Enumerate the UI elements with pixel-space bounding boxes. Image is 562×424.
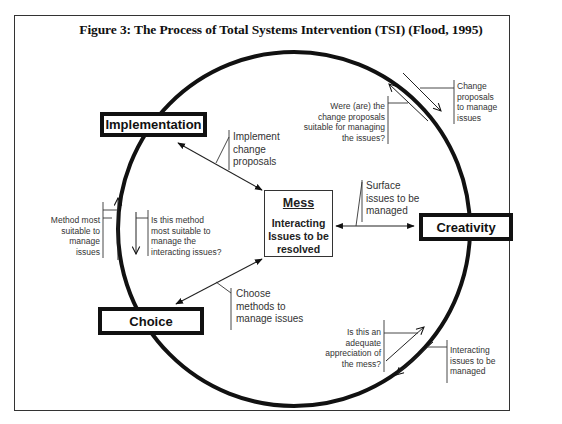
note-interacting-issues-managed: Interacting issues to be managed	[450, 345, 495, 377]
stage-choice-label: Choice	[129, 314, 172, 329]
arrow-implementation-back	[389, 84, 428, 121]
mess-box: Mess Interacting Issues to be resolved	[264, 190, 333, 257]
label-surface-issues: Surface issues to be managed	[366, 180, 419, 218]
note-method-most-suitable: Method most suitable to manage issues	[30, 215, 100, 257]
stage-creativity-label: Creativity	[436, 220, 495, 235]
note-change-proposals: Change proposals to manage issues	[457, 81, 497, 123]
callout-implement	[216, 130, 229, 170]
note-were-change-proposals-suitable: Were (are) the change proposals suitable…	[300, 101, 385, 143]
label-choose-methods: Choose methods to manage issues	[236, 288, 303, 326]
callout-surface	[356, 180, 362, 226]
note-is-this-method-most-suitable: Is this method most suitable to manage t…	[151, 215, 221, 257]
stage-choice: Choice	[98, 307, 204, 335]
stage-implementation: Implementation	[100, 112, 207, 137]
mess-body: Interacting Issues to be resolved	[265, 217, 332, 256]
mess-title: Mess	[265, 196, 332, 210]
label-implement-change-proposals: Implement change proposals	[233, 131, 280, 169]
callout-left	[103, 202, 148, 258]
stage-implementation-label: Implementation	[105, 117, 201, 132]
callout-choose	[216, 282, 231, 330]
note-adequate-appreciation: Is this an adequate appreciation of the …	[310, 327, 381, 369]
stage-creativity: Creativity	[419, 213, 513, 241]
